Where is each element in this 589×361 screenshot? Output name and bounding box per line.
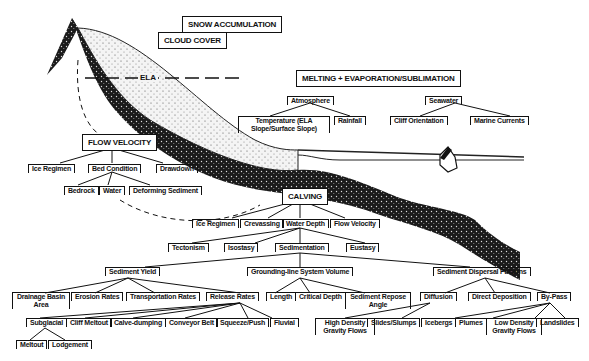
isostasy-node: Isostasy [224,243,258,252]
cliff-meltout-node: Cliff Meltout [66,318,112,327]
release-rates-node: Release Rates [206,292,259,301]
sediment-repose-node: Sediment Repose Angle [345,292,411,309]
high-density-flows-node: High Density Gravity Flows [315,318,375,335]
marine-currents-node: Marine Currents [470,116,529,125]
calving-flow-velocity-node: Flow Velocity [330,219,380,228]
lodgement-node: Lodgement [48,340,92,349]
slides-slumps-node: Slides/Slumps [367,318,420,327]
tectonism-node: Tectonism [168,243,209,252]
plumes-node: Plumes [455,318,487,327]
sedimentation-node: Sedimentation [275,243,329,252]
bed-condition-node: Bed Condition [88,164,141,173]
glacier-illustration [0,0,589,361]
squeeze-push-node: Squeeze/Push [216,318,269,327]
ela-label: ELA [138,73,158,82]
landslides-node: Landslides [536,318,579,327]
meltout-node: Meltout [16,340,47,349]
sediment-yield-node: Sediment Yield [105,267,160,276]
cliff-orientation-node: Cliff Orientation [390,116,448,125]
diagram: SNOW ACCUMULATION CLOUD COVER ELA MELTIN… [0,0,589,361]
length-node: Length [266,292,296,301]
grounding-line-volume-node: Grounding-line System Volume [247,267,353,276]
flow-velocity-box: FLOW VELOCITY [82,134,157,151]
snow-accumulation-box: SNOW ACCUMULATION [182,16,282,33]
subglacial-node: Subglacial [26,318,67,327]
transportation-rates-node: Transportation Rates [126,292,200,301]
by-pass-node: By-Pass [537,292,571,301]
critical-depth-node: Critical Depth [295,292,346,301]
icebergs-node: Icebergs [421,318,456,327]
direct-deposition-node: Direct Deposition [468,292,531,301]
eustasy-node: Eustasy [346,243,379,252]
cloud-cover-box: CLOUD COVER [158,32,227,49]
water-node: Water [99,186,125,195]
bedrock-node: Bedrock [64,186,99,195]
diffusion-node: Diffusion [420,292,457,301]
deforming-sediment-node: Deforming Sediment [129,186,202,195]
calving-ice-regimen-node: Ice Regimen [192,219,239,228]
sediment-dispersal-node: Sediment Dispersal Patterns [433,267,531,276]
flow-ice-regimen-node: Ice Regimen [28,164,75,173]
water-depth-node: Water Depth [282,219,329,228]
low-density-flows-node: Low Density Gravity Flows [486,318,542,335]
conveyor-belt-node: Conveyor Belt [165,318,218,327]
erosion-rates-node: Erosion Rates [71,292,123,301]
drawdown-node: Drawdown [156,164,198,173]
drainage-basin-node: Drainage Basin Area [12,292,70,309]
fluvial-node: Fluvial [270,318,299,327]
rainfall-node: Rainfall [334,116,366,125]
calving-box: CALVING [282,188,328,205]
melting-box: MELTING + EVAPORATION/SUBLIMATION [296,70,461,87]
seawater-node: Seawater [425,96,462,105]
atmosphere-node: Atmosphere [287,96,334,105]
temperature-node: Temperature (ELA Slope/Surface Slope) [238,116,330,133]
calve-dumping-node: Calve-dumping [110,318,166,327]
crevassing-node: Crevassing [240,219,284,228]
